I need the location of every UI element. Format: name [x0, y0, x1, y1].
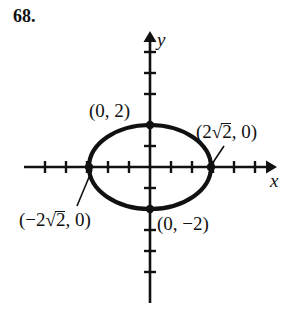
x-axis-label: x — [270, 171, 278, 190]
vertex-label-right-prefix: (2 — [196, 121, 212, 142]
vertex-label-left-suffix: , 0) — [65, 209, 90, 230]
ellipse-graph — [0, 0, 293, 317]
vertex-label-right-suffix: , 0) — [232, 121, 257, 142]
worksheet-page: 68. — [0, 0, 293, 317]
vertex-label-left-prefix: (−2 — [19, 209, 46, 230]
vertex-label-right-radicand: 2 — [222, 121, 232, 142]
vertex-marker-left — [85, 163, 93, 171]
vertex-label-top: (0, 2) — [89, 101, 130, 120]
vertex-marker-bottom — [146, 205, 154, 213]
vertex-label-left: (−2√2, 0) — [19, 210, 91, 229]
y-axis-label: y — [157, 30, 165, 49]
vinculum-icon — [221, 123, 231, 124]
vertex-marker-top — [146, 121, 154, 129]
y-axis-arrow-icon — [144, 31, 157, 42]
vinculum-icon — [55, 211, 65, 212]
vertex-label-right: (2√2, 0) — [196, 122, 257, 141]
sqrt-icon: √2 — [46, 210, 66, 229]
leader-line-left — [77, 170, 92, 206]
vertex-label-left-radicand: 2 — [56, 209, 66, 230]
vertex-label-bottom: (0, −2) — [157, 214, 209, 233]
sqrt-icon: √2 — [212, 122, 232, 141]
